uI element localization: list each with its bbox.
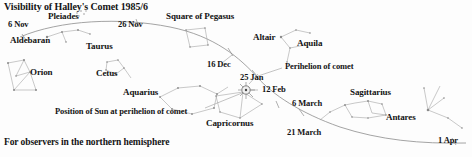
star-dot (7, 62, 9, 64)
star-dot (159, 96, 161, 98)
star-dot (461, 127, 463, 129)
sun-icon-dot (245, 89, 247, 91)
star-altair (280, 36, 282, 38)
date-label-6-march: 6 March (292, 99, 322, 108)
star-dot (329, 111, 331, 113)
constellation-label-taurus: Taurus (86, 42, 113, 51)
star-dot (117, 59, 119, 61)
star-dot (61, 31, 63, 33)
scorpius-body (428, 110, 462, 128)
chart-caption: For observers in the northern hemisphere (4, 138, 169, 148)
date-label-25-jan: 25 Jan (240, 73, 263, 82)
constellation-label-pleiades: Pleiades (48, 12, 79, 21)
constellation-scorpius (423, 86, 463, 129)
star-antares (427, 109, 430, 112)
tick-16-dec (228, 48, 233, 56)
scorpius-claw-upper (428, 86, 440, 110)
halleys-comet-sky-chart: Visibility of Halley's Comet 1985/6 For … (0, 0, 472, 157)
sagittarius-lines (330, 101, 386, 118)
constellation-taurus (46, 29, 91, 43)
constellation-label-aquila: Aquila (297, 39, 322, 48)
annotation-position-of-sun: Position of Sun at perihelion of comet (55, 107, 187, 116)
date-label-6-nov: 6 Nov (8, 20, 29, 29)
star-label-altair: Altair (253, 33, 275, 42)
date-label-21-march: 21 March (287, 128, 321, 137)
constellation-label-aquarius: Aquarius (123, 88, 158, 97)
star-dot (381, 103, 383, 105)
ray (240, 84, 243, 87)
star-dot (65, 41, 67, 43)
capricornus-lines (216, 92, 262, 118)
star-dot (204, 27, 206, 29)
constellation-capricornus (215, 91, 263, 119)
star-dot (219, 111, 221, 113)
taurus-lines (47, 30, 90, 37)
sky-map-canvas (0, 0, 472, 157)
star-dot (367, 117, 369, 119)
orion-lines (8, 60, 30, 90)
aquarius-branch (217, 87, 228, 94)
aquila-lines-spine (281, 37, 290, 62)
star-dot (367, 100, 369, 102)
constellation-label-cetus: Cetus (96, 69, 118, 78)
constellation-label-sagittarius: Sagittarius (350, 88, 391, 97)
star-dot (213, 107, 215, 109)
star-dot (89, 33, 91, 35)
star-dot (295, 29, 297, 31)
constellation-sagittarius (320, 100, 387, 120)
star-dot (261, 103, 263, 105)
star-dot (13, 89, 15, 91)
constellation-label-capricornus: Capricornus (206, 119, 253, 128)
date-label-26-nov: 26 Nov (118, 20, 143, 29)
date-label-16-dec: 16 Dec (207, 60, 231, 69)
star-dot (189, 46, 191, 48)
date-label-1-apr: 1 Apr (438, 136, 458, 145)
constellation-square-of-pegasus (185, 27, 209, 48)
star-dot (215, 95, 217, 97)
star-dot (207, 44, 209, 46)
star-label-aldebaran: Aldebaran (10, 36, 50, 45)
annotation-perihelion-of-comet: Perihelion of comet (285, 62, 353, 71)
star-label-antares: Antares (386, 113, 416, 122)
star-dot (185, 29, 187, 31)
tick-21-march (276, 101, 279, 108)
star-dot (351, 116, 353, 118)
star-dot (191, 113, 193, 115)
star-dot (77, 29, 79, 31)
star-dot (309, 32, 311, 34)
date-label-12-feb: 12 Feb (262, 85, 286, 94)
star-dot (15, 75, 17, 77)
constellation-label-orion: Orion (30, 68, 53, 77)
sagittarius-spout (320, 112, 330, 120)
star-dot (106, 61, 108, 63)
star-dot (423, 87, 425, 89)
leader-sun-position (205, 93, 242, 108)
star-dot (83, 13, 85, 15)
star-dot (344, 104, 346, 106)
star-dot (216, 93, 218, 95)
sun-at-perihelion-symbol (238, 82, 255, 99)
scorpius-claws (424, 88, 444, 110)
star-dot (443, 97, 445, 99)
star-dot (199, 85, 201, 87)
star-dot (123, 67, 125, 69)
star-dot (447, 117, 449, 119)
cetus-tail (124, 68, 131, 78)
aquila-lines (281, 30, 310, 37)
constellation-label-square-of-pegasus: Square of Pegasus (166, 12, 234, 21)
star-dot (23, 59, 25, 61)
star-dot (35, 89, 37, 91)
taurus-lines-branch (62, 32, 66, 42)
star-dot (289, 47, 291, 49)
star-dot (177, 87, 179, 89)
